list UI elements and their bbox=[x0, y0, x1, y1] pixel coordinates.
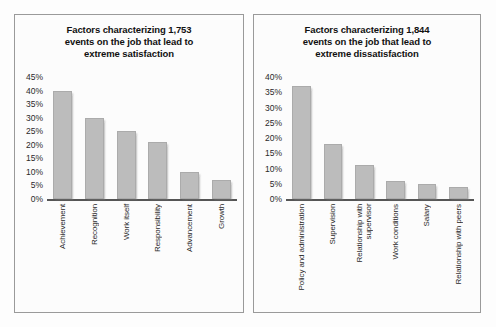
y-tick-label: 45% bbox=[26, 73, 43, 82]
bar bbox=[292, 86, 311, 199]
y-tick-label: 20% bbox=[265, 134, 282, 143]
figure-canvas: Factors characterizing 1,753 events on t… bbox=[0, 0, 496, 327]
y-tick-label: 25% bbox=[265, 118, 282, 127]
dissatisfaction-panel: Factors characterizing 1,844 events on t… bbox=[253, 14, 481, 313]
y-tick-label: 40% bbox=[26, 86, 43, 95]
x-axis-labels-dissatisfaction: Policy and administrationSupervisionRela… bbox=[286, 204, 474, 290]
bar bbox=[212, 180, 231, 199]
x-label-slot: Policy and administration bbox=[286, 204, 317, 290]
x-axis-tick-label: Responsibility bbox=[153, 204, 162, 252]
x-axis-tick-label: Achievement bbox=[58, 204, 67, 252]
chart-title-dissatisfaction: Factors characterizing 1,844 events on t… bbox=[254, 15, 480, 60]
y-tick-label: 35% bbox=[265, 88, 282, 97]
x-axis-tick-label: Work itself bbox=[122, 204, 131, 252]
bar bbox=[418, 184, 437, 199]
y-tick-label: 25% bbox=[26, 127, 43, 136]
satisfaction-panel: Factors characterizing 1,753 events on t… bbox=[14, 14, 244, 313]
x-axis-tick-label: Advancement bbox=[185, 204, 194, 252]
x-label-slot: Responsibility bbox=[142, 204, 174, 252]
bar-slot bbox=[174, 77, 206, 199]
x-axis-tick-label: Policy and administration bbox=[297, 204, 306, 290]
x-axis-tick-label: Work conditions bbox=[391, 204, 400, 290]
bar bbox=[324, 144, 343, 199]
x-label-slot: Growth bbox=[205, 204, 237, 252]
x-axis-line-dissatisfaction bbox=[286, 199, 474, 201]
bar bbox=[386, 181, 405, 199]
y-tick-label: 5% bbox=[270, 179, 282, 188]
x-label-slot: Work conditions bbox=[380, 204, 411, 290]
x-axis-tick-label: Growth bbox=[217, 204, 226, 252]
x-axis-tick-label: Recognition bbox=[90, 204, 99, 252]
x-axis-line-satisfaction bbox=[47, 199, 237, 201]
x-axis-labels-satisfaction: AchievementRecognitionWork itselfRespons… bbox=[47, 204, 237, 252]
bar bbox=[355, 165, 374, 199]
x-label-slot: Relationship with supervisor bbox=[349, 204, 380, 290]
y-tick-label: 5% bbox=[31, 181, 43, 190]
y-tick-label: 20% bbox=[26, 140, 43, 149]
bar bbox=[180, 172, 199, 199]
x-axis-tick-label: Supervision bbox=[328, 204, 337, 290]
bar-slot bbox=[411, 77, 442, 199]
bar bbox=[85, 118, 104, 199]
y-tick-label: 30% bbox=[26, 113, 43, 122]
bar-slot bbox=[443, 77, 474, 199]
y-tick-label: 15% bbox=[26, 154, 43, 163]
bar bbox=[53, 91, 72, 199]
bar bbox=[148, 142, 167, 199]
plot-area-satisfaction: 0%5%10%15%20%25%30%35%40%45% Achievement… bbox=[15, 65, 243, 315]
y-tick-label: 40% bbox=[265, 73, 282, 82]
plot-area-dissatisfaction: 0%5%10%15%20%25%30%35%40% Policy and adm… bbox=[254, 65, 480, 315]
chart-title-satisfaction: Factors characterizing 1,753 events on t… bbox=[15, 15, 243, 60]
bar-slot bbox=[286, 77, 317, 199]
y-tick-label: 15% bbox=[265, 149, 282, 158]
y-tick-label: 0% bbox=[31, 195, 43, 204]
y-tick-label: 30% bbox=[265, 103, 282, 112]
y-tick-label: 10% bbox=[26, 167, 43, 176]
bar-slot bbox=[380, 77, 411, 199]
bar bbox=[117, 131, 136, 199]
x-label-slot: Relationship with peers bbox=[443, 204, 474, 290]
bar-series-satisfaction bbox=[47, 77, 237, 199]
x-axis-tick-label: Salary bbox=[422, 204, 431, 290]
x-label-slot: Achievement bbox=[47, 204, 79, 252]
x-label-slot: Recognition bbox=[79, 204, 111, 252]
bar-slot bbox=[349, 77, 380, 199]
y-tick-label: 0% bbox=[270, 195, 282, 204]
bar-slot bbox=[47, 77, 79, 199]
bar-series-dissatisfaction bbox=[286, 77, 474, 199]
x-axis-tick-label: Relationship with supervisor bbox=[355, 204, 373, 290]
bar bbox=[449, 187, 468, 199]
bar-slot bbox=[110, 77, 142, 199]
bar-slot bbox=[317, 77, 348, 199]
y-tick-label: 35% bbox=[26, 100, 43, 109]
x-label-slot: Work itself bbox=[110, 204, 142, 252]
x-label-slot: Salary bbox=[411, 204, 442, 290]
x-label-slot: Advancement bbox=[174, 204, 206, 252]
bar-slot bbox=[79, 77, 111, 199]
bar-slot bbox=[205, 77, 237, 199]
bars-area-satisfaction bbox=[47, 65, 237, 315]
x-label-slot: Supervision bbox=[317, 204, 348, 290]
bar-slot bbox=[142, 77, 174, 199]
x-axis-tick-label: Relationship with peers bbox=[454, 204, 463, 290]
y-tick-label: 10% bbox=[265, 164, 282, 173]
